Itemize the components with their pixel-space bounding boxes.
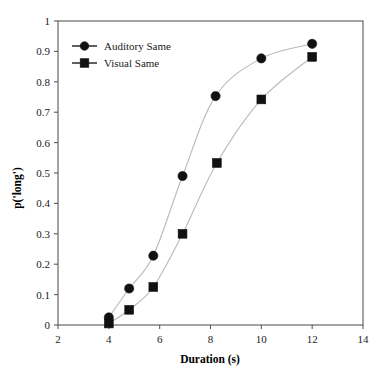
y-tick-label: 0.1 [36, 289, 50, 301]
data-point-marker [178, 229, 187, 238]
y-tick-label: 0.6 [36, 137, 50, 149]
data-point-marker [308, 52, 317, 61]
x-tick-label: 12 [307, 333, 318, 345]
legend-marker-circle-auditory-same [80, 42, 89, 51]
data-point-marker [149, 283, 158, 292]
x-axis-tickmarks [58, 325, 363, 329]
data-point-marker [104, 319, 113, 328]
y-tick-label: 0 [45, 319, 51, 331]
y-tick-label: 0.4 [36, 197, 50, 209]
y-tick-label: 0.8 [36, 76, 50, 88]
x-tick-label: 8 [208, 333, 214, 345]
x-tick-label: 6 [157, 333, 163, 345]
y-tick-label: 0.7 [36, 106, 50, 118]
data-point-marker [178, 171, 187, 180]
y-axis-title: p('long') [11, 167, 24, 209]
data-point-marker [211, 91, 220, 100]
data-point-marker [125, 284, 134, 293]
legend-marker-square-visual-same [80, 59, 89, 68]
data-series-layer [104, 39, 317, 328]
data-point-marker [308, 39, 317, 48]
series-line [109, 44, 312, 318]
x-axis-title: Duration (s) [180, 353, 240, 366]
chart-legend: Auditory Same Visual Same [72, 40, 171, 69]
psychometric-function-chart: 00.10.20.30.40.50.60.70.80.91 2468101214… [0, 0, 383, 378]
y-tick-label: 0.3 [36, 228, 50, 240]
x-tick-label: 14 [358, 333, 370, 345]
chart-canvas: 00.10.20.30.40.50.60.70.80.91 2468101214… [0, 0, 383, 378]
data-point-marker [125, 305, 134, 314]
y-tick-label: 0.9 [36, 45, 50, 57]
data-point-marker [149, 251, 158, 260]
y-axis-tick-labels: 00.10.20.30.40.50.60.70.80.91 [36, 15, 50, 331]
legend-label-visual-same: Visual Same [104, 57, 159, 69]
series-auditory-same [104, 39, 317, 322]
data-point-marker [212, 159, 221, 168]
legend-label-auditory-same: Auditory Same [104, 40, 171, 52]
x-axis-tick-labels: 2468101214 [55, 333, 369, 345]
y-tick-label: 1 [45, 15, 51, 27]
x-tick-label: 4 [106, 333, 112, 345]
y-tick-label: 0.2 [36, 258, 50, 270]
x-tick-label: 2 [55, 333, 61, 345]
y-tick-label: 0.5 [36, 167, 50, 179]
y-axis-tickmarks [54, 21, 58, 325]
data-point-marker [257, 54, 266, 63]
series-line [109, 57, 312, 324]
data-point-marker [257, 95, 266, 104]
x-tick-label: 10 [256, 333, 268, 345]
series-visual-same [104, 52, 316, 327]
